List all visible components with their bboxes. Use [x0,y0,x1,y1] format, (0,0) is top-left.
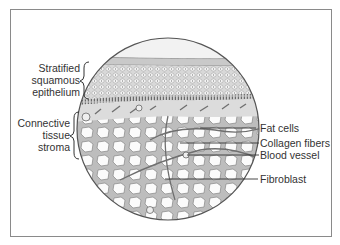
label-line: Connective [4,117,70,129]
label-blood-vessel: Blood vessel [260,149,320,161]
label-line: epithelium [14,86,80,98]
label-fat-cells: Fat cells [260,122,299,134]
label-line: squamous [14,74,80,86]
label-connective-tissue-stroma: Connective tissue stroma [4,117,70,153]
label-stratified-squamous-epithelium: Stratified squamous epithelium [14,62,80,98]
label-line: stroma [4,141,70,153]
label-fibroblast: Fibroblast [260,173,306,185]
tissue-section [70,30,270,230]
label-line: tissue [4,129,70,141]
label-collagen-fibers: Collagen fibers [260,137,330,149]
label-line: Stratified [14,62,80,74]
